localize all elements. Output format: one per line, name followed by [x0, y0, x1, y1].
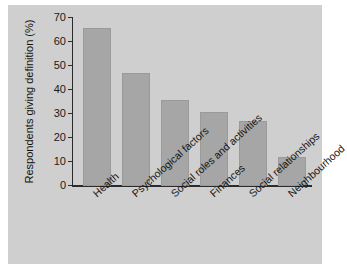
y-tick-label: 60 — [54, 36, 66, 47]
y-tick-mark — [68, 185, 72, 186]
y-tick-mark — [68, 65, 72, 66]
y-tick-mark — [68, 137, 72, 138]
y-axis-title: Respondents giving definition (%) — [22, 17, 36, 186]
y-tick-mark — [68, 41, 72, 42]
y-tick-label: 20 — [54, 132, 66, 143]
y-axis-line — [72, 17, 73, 186]
y-tick-label: 0 — [60, 180, 66, 191]
bar-health — [83, 28, 111, 186]
y-tick-label: 40 — [54, 84, 66, 95]
y-tick-label: 70 — [54, 12, 66, 23]
figure-panel: Respondents giving definition (%) 010203… — [8, 5, 322, 264]
y-tick-mark — [68, 89, 72, 90]
y-tick-label: 30 — [54, 108, 66, 119]
y-tick-mark — [68, 113, 72, 114]
plot-area: 010203040506070 HealthPsychological fact… — [72, 17, 314, 186]
y-tick-mark — [68, 161, 72, 162]
y-tick-label: 50 — [54, 60, 66, 71]
bar-psychological-factors — [122, 73, 150, 186]
y-tick-label: 10 — [54, 156, 66, 167]
y-tick-mark — [68, 17, 72, 18]
